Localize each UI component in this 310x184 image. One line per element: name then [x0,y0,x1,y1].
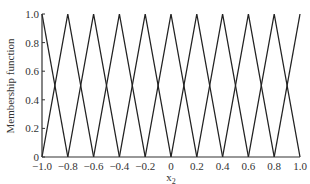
membership-curve [248,14,300,157]
x-tick-label: −0.8 [58,160,78,172]
membership-curve [119,14,171,157]
x-tick-label: −0.6 [84,160,104,172]
membership-curve [94,14,146,157]
membership-curves [42,14,300,157]
membership-curve [42,14,94,157]
membership-curve [171,14,223,157]
y-tick-label: 1.0 [25,8,39,20]
y-tick-label: 0.6 [25,65,39,77]
y-axis-label: Membership function [4,38,16,134]
x-tick-label: 1.0 [293,160,307,172]
x-tick-label: 0.4 [216,160,230,172]
membership-chart: −1.0−0.8−0.6−0.4−0.200.20.40.60.81.0 00.… [0,0,310,184]
y-tick-label: 0.8 [25,37,39,49]
x-tick-label: −0.4 [109,160,129,172]
membership-curve [197,14,249,157]
y-tick-label: 0.4 [25,94,39,106]
x-tick-label: −0.2 [135,160,155,172]
x-tick-label: 0.8 [267,160,281,172]
x-axis-label: x2 [166,171,176,184]
x-tick-label: 0.6 [242,160,256,172]
y-tick-label: 0.2 [25,122,39,134]
membership-curve [68,14,120,157]
membership-curve [223,14,275,157]
membership-curve [145,14,197,157]
x-tick-label: 0.2 [190,160,204,172]
y-tick-label: 0 [34,151,40,163]
